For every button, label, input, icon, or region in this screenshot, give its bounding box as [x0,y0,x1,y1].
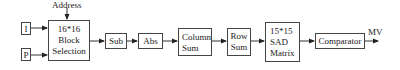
input-i-box: I [21,22,31,35]
block-selection-line-2: Block [58,35,80,46]
abs-label: Abs [143,36,158,46]
sub-label: Sub [109,36,123,46]
sad-matrix-box: 15*15 SAD Matrix [265,22,300,62]
row-sum-box: Row Sum [227,28,251,56]
abs-box: Abs [138,33,163,49]
block-selection-box: 16*16 Block Selection [48,20,90,61]
row-sum-line-2: Sum [231,42,248,53]
input-p-box: P [21,48,31,61]
sub-box: Sub [105,33,127,49]
row-sum-line-1: Row [230,31,247,42]
column-sum-box: Column Sum [178,28,212,56]
sad-matrix-line-1: 15*15 [270,26,293,37]
sad-matrix-line-3: Matrix [270,48,295,59]
comparator-box: Comparator [315,33,365,49]
block-selection-line-3: Selection [52,46,86,57]
address-label: Address [52,0,82,10]
comparator-label: Comparator [319,36,362,46]
input-p-label: P [23,50,28,60]
block-selection-line-1: 16*16 [58,24,81,35]
mv-output-label: MV [368,27,383,37]
column-sum-line-2: Sum [182,43,199,54]
input-i-label: I [25,24,28,34]
sad-matrix-line-2: SAD [270,37,288,48]
column-sum-line-1: Column [182,32,211,43]
